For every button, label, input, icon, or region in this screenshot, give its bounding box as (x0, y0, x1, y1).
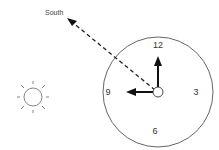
clock-number-3: 3 (193, 87, 198, 97)
south-label: South (45, 9, 63, 16)
diagram-canvas (0, 0, 219, 150)
clock-number-12: 12 (153, 40, 163, 50)
hour-hand-arrow-icon (126, 88, 136, 96)
south-arrow-head-icon (67, 18, 77, 26)
clock-center (153, 87, 163, 97)
clock-number-9: 9 (105, 87, 110, 97)
dashed-arrow-line (72, 22, 155, 90)
sun-icon (17, 81, 49, 113)
minute-hand-arrow-icon (154, 56, 162, 66)
clock-number-6: 6 (152, 126, 157, 136)
